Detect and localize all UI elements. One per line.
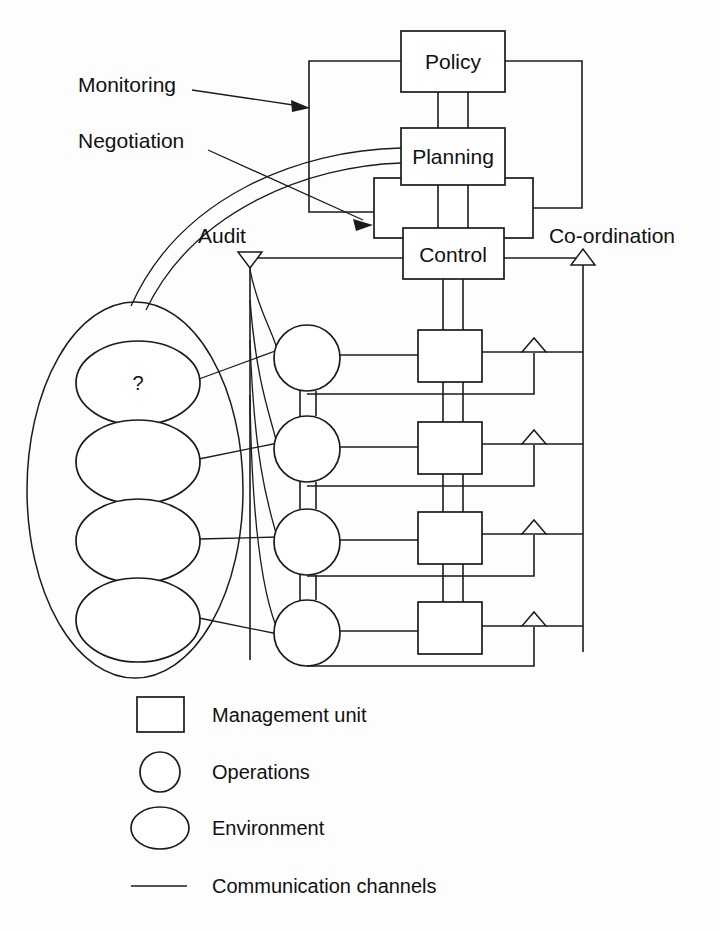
management-unit-3[interactable]: [418, 512, 482, 564]
management-unit-2[interactable]: [418, 422, 482, 474]
operation-circle-1[interactable]: [274, 325, 340, 391]
monitoring-leader-line: [192, 90, 300, 106]
operation-circle-2[interactable]: [274, 416, 340, 482]
planning-box-label: Planning: [412, 145, 494, 168]
legend-label-operations: Operations: [212, 761, 310, 783]
coordination-label: Co-ordination: [549, 224, 675, 247]
legend-swatch-square: [137, 697, 184, 732]
management-unit-4[interactable]: [418, 602, 482, 654]
monitoring-arrowhead-icon: [291, 100, 310, 112]
environment-ellipse-4[interactable]: [76, 578, 200, 662]
diagram-canvas: Policy Planning Control ?: [0, 0, 720, 931]
legend-label-environment: Environment: [212, 817, 325, 839]
audit-branch-2: [250, 300, 276, 440]
operation-circle-3[interactable]: [274, 509, 340, 575]
negotiation-label: Negotiation: [78, 129, 184, 152]
monitoring-label: Monitoring: [78, 73, 176, 96]
env-op-link-1: [199, 350, 278, 379]
environment-ellipse-3[interactable]: [76, 499, 200, 583]
operation-circle-4[interactable]: [274, 600, 340, 666]
audit-branch-4: [250, 395, 276, 626]
legend-swatch-ellipse: [131, 807, 189, 849]
env-op-link-4: [199, 618, 278, 634]
env-op-link-2: [199, 443, 278, 459]
environment-unknown-label: ?: [132, 372, 143, 394]
audit-label: Audit: [198, 224, 246, 247]
env-op-link-3: [199, 537, 278, 539]
unit3-coordination-triangle-icon: [522, 520, 546, 534]
negotiation-curve-inner: [146, 163, 401, 310]
unit2-coordination-triangle-icon: [522, 430, 546, 444]
legend-label-communication-channels: Communication channels: [212, 875, 437, 897]
coordination-triangle-icon: [571, 249, 595, 265]
legend-swatch-circle: [140, 752, 180, 792]
management-unit-1[interactable]: [418, 330, 482, 382]
negotiation-arrowhead-icon: [353, 219, 373, 231]
legend-label-management-unit: Management unit: [212, 704, 367, 726]
policy-box-label: Policy: [425, 50, 482, 73]
control-box-label: Control: [419, 243, 487, 266]
vsm-diagram: Policy Planning Control ?: [0, 0, 720, 931]
unit1-coordination-triangle-icon: [522, 338, 546, 352]
audit-triangle-icon: [238, 252, 262, 268]
negotiation-leader-line: [208, 150, 363, 220]
environment-ellipse-2[interactable]: [76, 420, 200, 504]
unit4-coordination-triangle-icon: [522, 612, 546, 626]
